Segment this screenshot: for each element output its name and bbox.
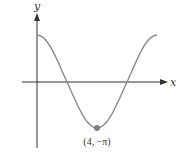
- y-axis-arrow-icon: [34, 13, 40, 21]
- x-axis-arrow-icon: [160, 79, 168, 85]
- minimum-point-marker: [94, 125, 100, 131]
- x-axis-label: x: [170, 76, 177, 89]
- minimum-point-label: (4, −π): [83, 136, 110, 148]
- y-axis-label: y: [33, 0, 41, 13]
- graph: x y (4, −π): [0, 0, 181, 155]
